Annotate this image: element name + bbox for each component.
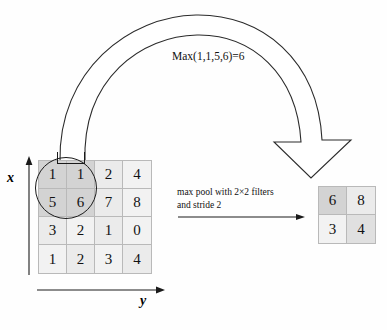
input-cell: 4 [123, 161, 151, 189]
input-cell: 0 [123, 217, 151, 245]
figure-canvas: Max(1,1,5,6)=6 x 1 1 2 4 5 6 7 8 3 2 1 0… [0, 0, 387, 330]
input-cell: 3 [39, 217, 67, 245]
max-formula-label: Max(1,1,5,6)=6 [172, 50, 245, 62]
pooling-window-connector [57, 152, 85, 164]
x-axis-arrow [22, 155, 36, 277]
output-cell: 3 [319, 215, 347, 243]
input-cell: 3 [95, 245, 123, 273]
output-feature-map: 6 8 3 4 [318, 186, 376, 244]
max-pool-transform-arrow [178, 212, 306, 222]
x-axis-label: x [7, 170, 14, 186]
output-cell: 6 [319, 187, 347, 215]
max-pool-caption-line-1: max pool with 2×2 filters [177, 186, 312, 199]
input-cell: 4 [123, 245, 151, 273]
input-cell: 1 [39, 245, 67, 273]
max-pool-caption: max pool with 2×2 filters and stride 2 [177, 186, 312, 212]
input-cell: 8 [123, 189, 151, 217]
input-cell: 2 [67, 245, 95, 273]
input-cell: 2 [67, 217, 95, 245]
input-cell: 1 [95, 217, 123, 245]
output-cell: 8 [347, 187, 375, 215]
y-axis-label: y [140, 293, 146, 309]
y-axis-arrow [36, 283, 166, 297]
input-cell: 7 [95, 189, 123, 217]
pooling-window-circle [35, 157, 97, 219]
input-cell: 2 [95, 161, 123, 189]
max-pool-caption-line-2: and stride 2 [177, 199, 312, 212]
output-cell: 4 [347, 215, 375, 243]
